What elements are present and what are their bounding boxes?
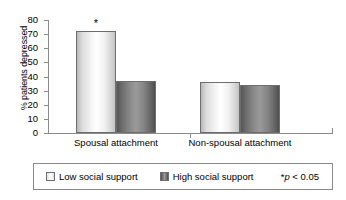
bar-high-spousal bbox=[116, 81, 156, 133]
y-tick-50: 50 bbox=[44, 62, 49, 63]
x-axis-end-cap bbox=[332, 128, 333, 134]
y-tick-label-30: 30 bbox=[27, 85, 38, 96]
y-tick-30: 30 bbox=[44, 91, 49, 92]
y-tick-label-0: 0 bbox=[33, 127, 38, 138]
x-axis-start-cap bbox=[48, 128, 49, 134]
legend-swatch-dark-icon bbox=[160, 172, 169, 181]
y-tick-label-40: 40 bbox=[27, 71, 38, 82]
legend-label-high-social-support: High social support bbox=[173, 171, 254, 182]
y-tick-80: 80 bbox=[44, 20, 49, 21]
significance-asterisk: * bbox=[94, 18, 98, 29]
y-tick-10: 10 bbox=[44, 119, 49, 120]
y-tick-60: 60 bbox=[44, 48, 49, 49]
y-tick-label-50: 50 bbox=[27, 56, 38, 67]
bar-low-non-spousal bbox=[200, 82, 240, 133]
legend: Low social support High social support *… bbox=[33, 163, 333, 190]
legend-swatch-light-icon bbox=[46, 172, 55, 181]
y-tick-70: 70 bbox=[44, 34, 49, 35]
bar-low-spousal bbox=[76, 31, 116, 133]
bar-chart: % patients depressed 01020304050607080 *… bbox=[0, 0, 346, 200]
legend-item-low-social-support: Low social support bbox=[46, 171, 138, 182]
legend-label-low-social-support: Low social support bbox=[59, 171, 138, 182]
legend-item-high-social-support: High social support bbox=[160, 171, 254, 182]
plot-area: 01020304050607080 * bbox=[48, 20, 333, 133]
y-tick-label-80: 80 bbox=[27, 14, 38, 25]
x-axis-label-non-spousal: Non-spousal attachment bbox=[189, 137, 292, 148]
bar-high-non-spousal bbox=[240, 85, 280, 133]
significance-threshold: < 0.05 bbox=[290, 171, 319, 182]
y-tick-40: 40 bbox=[44, 77, 49, 78]
y-tick-20: 20 bbox=[44, 105, 49, 106]
x-axis-label-spousal: Spousal attachment bbox=[74, 137, 158, 148]
y-tick-label-20: 20 bbox=[27, 99, 38, 110]
significance-note: *p < 0.05 bbox=[281, 171, 319, 182]
y-tick-label-60: 60 bbox=[27, 42, 38, 53]
y-tick-label-10: 10 bbox=[27, 113, 38, 124]
y-tick-label-70: 70 bbox=[27, 28, 38, 39]
